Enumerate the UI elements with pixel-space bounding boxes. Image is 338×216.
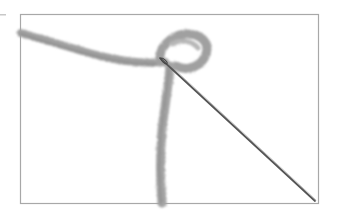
yarn-needle-illustration <box>0 0 338 216</box>
photo: Photograph of a strand of gray yarn form… <box>0 0 338 216</box>
